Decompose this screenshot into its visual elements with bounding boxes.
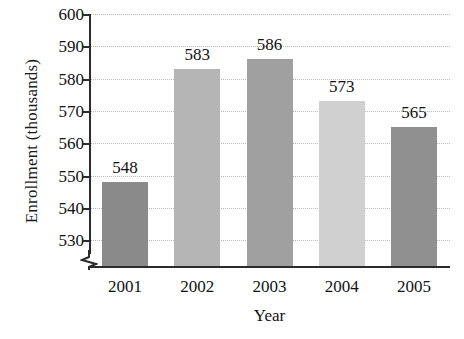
x-axis-title: Year (89, 306, 450, 326)
y-axis-line-upper (89, 14, 91, 254)
bar (247, 59, 293, 266)
bar (319, 101, 365, 266)
y-axis-tick-label: 600 (36, 6, 84, 23)
y-axis-tick-label: 550 (36, 168, 84, 185)
y-axis-tick-label: 590 (36, 38, 84, 55)
bar-value-label: 565 (384, 104, 444, 121)
x-axis-tick-label: 2004 (306, 277, 378, 297)
bar-chart: Enrollment (thousands) 60059058057056055… (0, 0, 464, 339)
bar (174, 69, 220, 266)
x-axis-tick-labels: 20012002200320042005 (89, 277, 450, 301)
x-axis-tick-label: 2001 (89, 277, 161, 297)
bar-value-label: 583 (167, 46, 227, 63)
gridline (89, 14, 450, 15)
x-axis-tick-label: 2005 (378, 277, 450, 297)
bar (102, 182, 148, 266)
plot-area: 548583586573565 (89, 14, 450, 267)
x-axis-tick-label: 2003 (234, 277, 306, 297)
bar-value-label: 548 (95, 159, 155, 176)
x-axis-line (89, 266, 450, 268)
y-axis-tick-label: 530 (36, 232, 84, 249)
y-axis-tick-label: 580 (36, 71, 84, 88)
axis-break-icon (80, 250, 98, 270)
y-axis-tick-labels: 600590580570560550540530 (36, 0, 84, 339)
bar-value-label: 573 (312, 78, 372, 95)
y-axis-tick-label: 560 (36, 135, 84, 152)
x-axis-tick-label: 2002 (161, 277, 233, 297)
bar (391, 127, 437, 266)
y-axis-tick-label: 540 (36, 200, 84, 217)
y-axis-tick-label: 570 (36, 103, 84, 120)
bar-value-label: 586 (240, 36, 300, 53)
